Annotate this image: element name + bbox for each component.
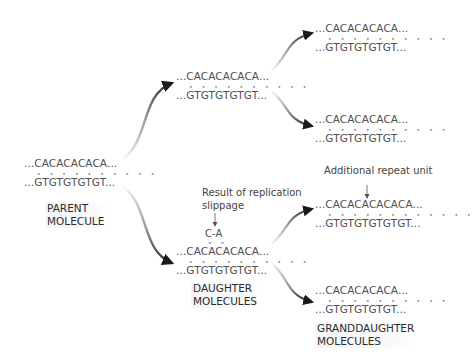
slippage-annotation: Result of replication slippage [202,186,302,212]
arrow-parent-to-daughter1 [122,83,172,160]
repeat-unit-annotation: Additional repeat unit [324,164,433,177]
gd4-top-strand: ...CACACACACA... [315,285,408,296]
parent-bottom-strand: ...GTGTGTGTGT... [24,177,115,188]
arrow-parent-to-daughter2 [122,186,172,263]
daughter1-bottom-strand: ...GTGTGTGTGT... [176,90,267,101]
gd3-bottom-strand: ...GTGTGTGTGTGT... [315,218,421,229]
arrow-daughter1-to-gd2 [270,90,312,126]
arrow-daughter1-to-gd1 [270,33,312,72]
gd1-bottom-strand: ...GTGTGTGTGT... [315,42,406,53]
granddaughter-molecules-label: GRANDDAUGHTER MOLECULES [315,322,418,348]
parent-top-strand: ...CACACACACA... [24,158,117,169]
gd2-top-strand: ...CACACACACA... [315,114,408,125]
arrow-daughter2-to-gd3 [270,209,312,245]
gd1-top-strand: ...CACACACACA... [315,23,408,34]
daughter-molecules-label: DAUGHTER MOLECULES [191,282,261,308]
daughter2-bottom-strand: ...GTGTGTGTGT... [176,265,267,276]
arrow-daughter2-to-gd4 [270,262,312,302]
parent-molecule-label: PARENT MOLECULE [45,202,108,228]
gd4-bottom-strand: ...GTGTGTGTGT... [315,304,406,315]
daughter2-top-strand: ...CACACACACA... [176,246,269,257]
gd3-top-strand: ...CACACACACACA... [315,199,423,210]
gd2-bottom-strand: ...GTGTGTGTGT... [315,133,406,144]
slippage-loop: C-A [205,229,223,239]
daughter1-top-strand: ...CACACACACA... [176,71,269,82]
